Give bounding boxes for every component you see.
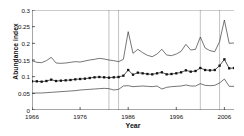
x-tick-label: 2006 bbox=[204, 113, 244, 120]
x-tick-label: 1966 bbox=[12, 113, 52, 120]
x-axis-title: Year bbox=[32, 122, 234, 129]
x-tick-label: 1986 bbox=[108, 113, 148, 120]
abundance-index-chart: Abundance index 0.3 0.25 0.2 0.15 0.1 0.… bbox=[0, 0, 244, 136]
x-tick-label: 1976 bbox=[60, 113, 100, 120]
x-axis-tick-labels: 19661976198619962006 bbox=[0, 0, 244, 136]
x-tick-label: 1996 bbox=[156, 113, 196, 120]
